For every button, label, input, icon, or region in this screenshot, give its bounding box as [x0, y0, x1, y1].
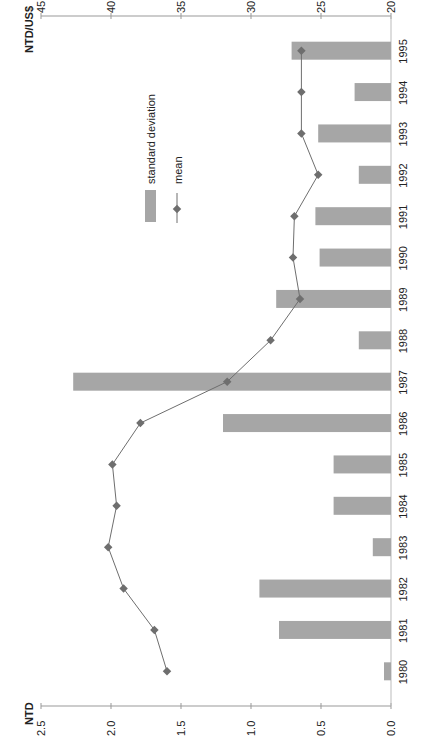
- mean-diamond-marker-icon: [108, 460, 116, 468]
- sd-bar: [318, 124, 391, 142]
- legend: standard deviation mean: [145, 94, 184, 223]
- legend-bar-swatch-icon: [145, 190, 156, 222]
- sd-bar: [315, 207, 391, 225]
- category-label: 1993: [397, 122, 409, 146]
- mean-diamond-marker-icon: [297, 129, 305, 137]
- mean-diamond-marker-icon: [119, 584, 127, 592]
- sd-bar: [334, 497, 391, 515]
- category-label: 1982: [397, 577, 409, 601]
- sd-bar: [73, 373, 391, 391]
- mean-diamond-marker-icon: [289, 253, 297, 261]
- sd-bar: [373, 538, 391, 556]
- mean-diamond-marker-icon: [163, 667, 171, 675]
- sd-bars: [73, 42, 391, 681]
- mean-diamond-marker-icon: [112, 502, 120, 510]
- category-label: 1981: [397, 618, 409, 642]
- right-axis-tick-label: 25: [315, 1, 327, 13]
- mean-diamond-marker-icon: [136, 419, 144, 427]
- category-label: 1987: [397, 370, 409, 394]
- category-labels: 1980198119821983198419851986198719881989…: [397, 39, 409, 684]
- sd-bar: [320, 249, 391, 267]
- mean-diamond-marker-icon: [104, 543, 112, 551]
- right-axis-tick-label: 35: [175, 1, 187, 13]
- right-axis-title: NTD/US$: [23, 6, 35, 53]
- sd-bar: [279, 621, 391, 639]
- sd-bar: [292, 42, 391, 60]
- left-axis-tick-label: 1.0: [245, 721, 257, 736]
- mean-polyline: [108, 51, 318, 672]
- category-label: 1994: [397, 81, 409, 105]
- category-label: 1985: [397, 453, 409, 477]
- legend-diamond-marker-icon: [173, 205, 181, 213]
- sd-bar: [334, 455, 391, 473]
- category-label: 1986: [397, 412, 409, 436]
- right-axis-tick-label: 30: [245, 1, 257, 13]
- right-axis-tick-label: 20: [385, 1, 397, 13]
- mean-diamond-marker-icon: [314, 171, 322, 179]
- mean-diamond-marker-icon: [150, 626, 158, 634]
- right-axis-tick-label: 40: [105, 1, 117, 13]
- category-label: 1991: [397, 205, 409, 229]
- left-axis-tick-label: 0.5: [315, 721, 327, 736]
- left-axis-tick-label: 0.0: [385, 721, 397, 736]
- category-label: 1988: [397, 329, 409, 353]
- category-label: 1990: [397, 246, 409, 270]
- category-label: 1995: [397, 39, 409, 63]
- sd-bar: [276, 290, 391, 308]
- chart-svg: 0.00.51.01.52.02.5202530354045 198019811…: [0, 0, 431, 751]
- sd-bar: [384, 662, 391, 680]
- left-axis-tick-label: 2.0: [105, 721, 117, 736]
- category-label: 1983: [397, 536, 409, 560]
- left-axis-tick-label: 2.5: [35, 721, 47, 736]
- category-label: 1989: [397, 287, 409, 311]
- legend-mean-label: mean: [172, 156, 184, 184]
- left-axis-title: NTD: [23, 702, 35, 725]
- sd-bar: [355, 83, 391, 101]
- chart-container: 0.00.51.01.52.02.5202530354045 198019811…: [0, 0, 431, 751]
- sd-bar: [359, 166, 391, 184]
- sd-bar: [259, 580, 391, 598]
- legend-sd-label: standard deviation: [145, 94, 157, 184]
- sd-bar: [223, 414, 391, 432]
- mean-diamond-marker-icon: [297, 88, 305, 96]
- category-label: 1992: [397, 163, 409, 187]
- category-label: 1980: [397, 660, 409, 684]
- category-label: 1984: [397, 494, 409, 518]
- sd-bar: [359, 331, 391, 349]
- mean-diamond-marker-icon: [290, 212, 298, 220]
- left-axis-tick-label: 1.5: [175, 721, 187, 736]
- right-axis-tick-label: 45: [35, 1, 47, 13]
